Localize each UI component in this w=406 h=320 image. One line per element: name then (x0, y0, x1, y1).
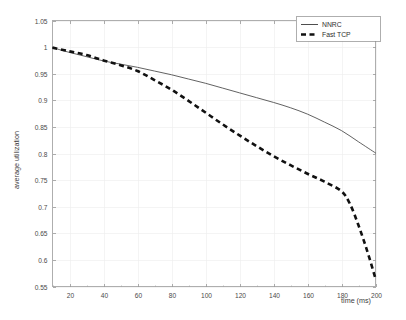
y-tick-label: 0.75 (35, 177, 48, 184)
y-tick-label: 0.6 (38, 257, 47, 264)
x-tick-label: 80 (169, 292, 177, 299)
x-tick-label: 140 (269, 292, 280, 299)
x-axis-tick-labels: 20406080100120140160180200 (67, 292, 382, 299)
x-tick-label: 20 (67, 292, 75, 299)
x-tick-label: 200 (371, 292, 382, 299)
y-tick-label: 0.7 (38, 204, 47, 211)
y-tick-label: 0.65 (35, 230, 48, 237)
y-tick-label: 0.95 (35, 71, 48, 78)
y-axis-tick-labels: 0.550.60.650.70.750.80.850.90.9511.05 (35, 18, 48, 291)
y-tick-label: 0.55 (35, 284, 48, 291)
x-axis-title: time (ms) (341, 296, 371, 305)
figure-canvas: 20406080100120140160180200 0.550.60.650.… (0, 0, 406, 320)
data-series-layer (53, 48, 376, 279)
y-tick-label: 0.85 (35, 124, 48, 131)
y-axis-title: average utilization (12, 131, 21, 189)
chart-plot: 20406080100120140160180200 0.550.60.650.… (0, 0, 406, 320)
legend-label-fast-tcp[interactable]: Fast TCP (322, 31, 351, 38)
y-tick-label: 0.8 (38, 151, 47, 158)
x-tick-label: 40 (101, 292, 109, 299)
x-tick-label: 160 (303, 292, 314, 299)
legend-label-nnrc[interactable]: NNRC (322, 21, 342, 28)
x-tick-label: 60 (135, 292, 143, 299)
y-tick-label: 1 (44, 44, 48, 51)
y-tick-label: 0.9 (38, 97, 47, 104)
x-tick-label: 100 (201, 292, 212, 299)
x-tick-label: 120 (235, 292, 246, 299)
series-line-fast-tcp (53, 48, 376, 279)
chart-legend[interactable]: NNRC Fast TCP (296, 16, 380, 41)
y-tick-label: 1.05 (35, 18, 48, 25)
